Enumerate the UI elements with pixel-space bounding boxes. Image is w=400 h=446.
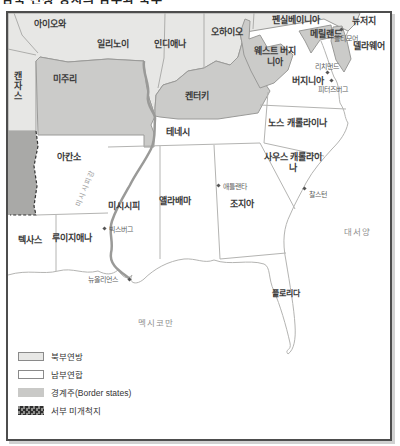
state-label-pennsylvania: 펜실베이니아 bbox=[272, 15, 320, 26]
legend-row-border-states: 경계주(Border states) bbox=[18, 383, 131, 401]
state-label-kentucky: 켄터키 bbox=[185, 91, 209, 102]
legend-swatch-confederacy bbox=[18, 370, 44, 379]
legend-row-confederacy: 남부연합 bbox=[18, 365, 131, 383]
region-missouri bbox=[36, 57, 155, 147]
legend: 북부연방 남부연합 경계주(Border states) 서부 미개척지 bbox=[18, 347, 131, 419]
legend-swatch-western-frontier bbox=[18, 406, 44, 415]
city-label-atlanta: 애틀랜타 bbox=[223, 181, 247, 191]
figure-title-clipped: 남북 전쟁 당시의 남부와 북부 bbox=[2, 0, 302, 4]
civil-war-map-figure: 남북 전쟁 당시의 남부와 북부 bbox=[0, 0, 400, 446]
state-label-tennessee: 테네시 bbox=[166, 127, 190, 138]
legend-swatch-border-states bbox=[18, 388, 44, 397]
city-label-baltimore: 볼티모어 bbox=[334, 33, 358, 43]
state-label-north-carolina: 노스 캐롤라이나 bbox=[268, 118, 327, 129]
region-western-frontier bbox=[8, 131, 38, 215]
water-label-atlantic-ocean: 대서양 bbox=[344, 225, 371, 237]
legend-row-western-frontier: 서부 미개척지 bbox=[18, 401, 131, 419]
state-label-indiana: 인디애나 bbox=[154, 39, 186, 50]
legend-swatch-union bbox=[18, 352, 44, 361]
city-label-vicksburg: 빅스버그 bbox=[109, 224, 133, 234]
state-label-south-carolina: 사우스 캐롤라이나 bbox=[262, 152, 324, 174]
state-label-louisiana: 루이지애나 bbox=[52, 233, 92, 244]
state-label-illinois: 일리노이 bbox=[97, 39, 129, 50]
state-label-georgia: 조지아 bbox=[230, 199, 254, 210]
state-label-ohio: 오하이오 bbox=[211, 27, 243, 38]
legend-label-union: 북부연방 bbox=[51, 350, 83, 362]
city-label-petersburg: 피터즈버그 bbox=[318, 84, 348, 94]
state-label-mississippi: 미시시피 bbox=[108, 201, 140, 212]
state-label-west-virginia: 웨스트 버지니아 bbox=[251, 46, 299, 68]
state-label-arkansas: 아칸소 bbox=[57, 152, 81, 163]
city-label-new-orleans: 뉴올리언스 bbox=[88, 274, 118, 284]
state-label-new-jersey: 뉴저지 bbox=[352, 16, 376, 27]
legend-label-border-states: 경계주(Border states) bbox=[51, 386, 131, 398]
state-label-alabama: 앨라배마 bbox=[159, 196, 191, 207]
state-label-missouri: 미주리 bbox=[53, 74, 77, 85]
legend-row-union: 북부연방 bbox=[18, 347, 131, 365]
figure-title-text: 남북 전쟁 당시의 남부와 북부 bbox=[2, 0, 302, 4]
state-label-florida: 플로리다 bbox=[272, 289, 300, 299]
map-frame: 아이오와 일리노이 인디애나 오하이오 펜실베이니아 뉴저지 캔자스 미주리 켄… bbox=[6, 11, 392, 441]
state-label-texas: 텍사스 bbox=[18, 235, 42, 246]
state-label-kansas: 캔자스 bbox=[12, 71, 23, 101]
city-label-charleston: 찰스턴 bbox=[309, 189, 327, 199]
water-label-gulf-of-mexico: 멕시코만 bbox=[138, 316, 174, 328]
legend-label-confederacy: 남부연합 bbox=[51, 368, 83, 380]
state-label-iowa: 아이오와 bbox=[34, 19, 66, 30]
legend-label-western-frontier: 서부 미개척지 bbox=[51, 404, 101, 416]
